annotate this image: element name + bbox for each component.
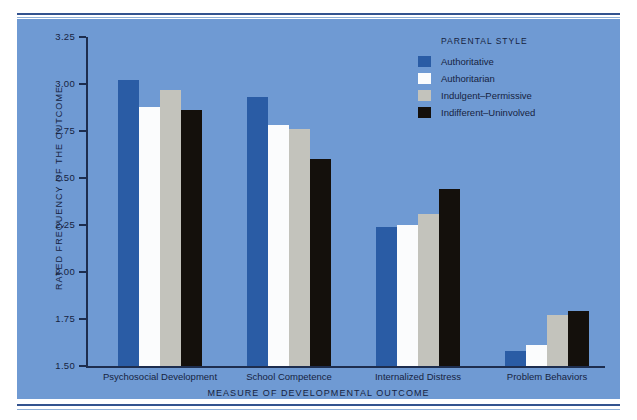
bar xyxy=(397,225,418,366)
bar xyxy=(568,311,589,366)
y-tick-label-7: 3.25 xyxy=(17,31,75,42)
top-rule-secondary xyxy=(17,17,620,18)
chart-panel: 1.501.752.002.252.502.753.003.25 RATED F… xyxy=(17,19,620,399)
bar xyxy=(505,351,526,366)
legend-entry: Indulgent–Permissive xyxy=(418,88,618,103)
top-rule xyxy=(17,13,620,15)
legend-swatch-icon xyxy=(418,90,431,101)
x-axis-label: MEASURE OF DEVELOPMENTAL OUTCOME xyxy=(17,388,620,398)
y-tick-label-0: 1.50 xyxy=(17,360,75,371)
bottom-rule xyxy=(17,404,620,406)
x-tick-label-3: Problem Behaviors xyxy=(507,371,587,382)
legend-title: PARENTAL STYLE xyxy=(441,36,618,46)
y-tick-label-5: 2.75 xyxy=(17,125,75,136)
y-tick-4 xyxy=(79,177,86,179)
legend-entry: Indifferent–Uninvolved xyxy=(418,105,618,120)
y-tick-0 xyxy=(79,365,86,367)
bar xyxy=(160,90,181,366)
legend-entry: Authoritarian xyxy=(418,71,618,86)
y-tick-label-2: 2.00 xyxy=(17,266,75,277)
figure-container: 1.501.752.002.252.502.753.003.25 RATED F… xyxy=(0,0,637,420)
legend-swatch-icon xyxy=(418,73,431,84)
y-tick-3 xyxy=(79,224,86,226)
x-tick-label-2: Internalized Distress xyxy=(375,371,461,382)
bar xyxy=(268,125,289,366)
y-tick-label-4: 2.50 xyxy=(17,172,75,183)
legend-label: Indulgent–Permissive xyxy=(441,90,532,101)
y-tick-label-1: 1.75 xyxy=(17,313,75,324)
bar xyxy=(547,315,568,366)
legend-label: Authoritative xyxy=(441,56,494,67)
bar xyxy=(418,214,439,366)
bar xyxy=(526,345,547,366)
y-tick-2 xyxy=(79,271,86,273)
bar xyxy=(139,107,160,366)
bar xyxy=(310,159,331,366)
y-tick-label-3: 2.25 xyxy=(17,219,75,230)
bar-group xyxy=(118,37,202,366)
bar xyxy=(247,97,268,366)
y-tick-6 xyxy=(79,83,86,85)
legend-swatch-icon xyxy=(418,107,431,118)
legend-entries: AuthoritativeAuthoritarianIndulgent–Perm… xyxy=(418,54,618,120)
bar xyxy=(181,110,202,366)
x-tick-label-1: School Competence xyxy=(246,371,332,382)
legend: PARENTAL STYLE AuthoritativeAuthoritaria… xyxy=(418,36,618,122)
x-axis-line xyxy=(86,366,605,368)
legend-label: Authoritarian xyxy=(441,73,495,84)
y-axis-label: RATED FREQUENCY OF THE OUTCOME xyxy=(54,48,64,328)
x-tick-label-0: Psychosocial Development xyxy=(103,371,217,382)
y-tick-5 xyxy=(79,130,86,132)
bar xyxy=(439,189,460,366)
legend-swatch-icon xyxy=(418,56,431,67)
bottom-rule-secondary xyxy=(17,409,620,410)
y-tick-1 xyxy=(79,318,86,320)
bar xyxy=(289,129,310,366)
bar xyxy=(118,80,139,366)
bar xyxy=(376,227,397,366)
legend-entry: Authoritative xyxy=(418,54,618,69)
y-tick-7 xyxy=(79,36,86,38)
bar-group xyxy=(247,37,331,366)
y-tick-label-6: 3.00 xyxy=(17,78,75,89)
legend-label: Indifferent–Uninvolved xyxy=(441,107,535,118)
